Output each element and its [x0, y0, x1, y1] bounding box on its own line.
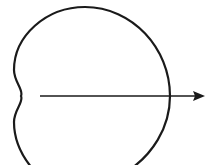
limacon-diagram	[0, 0, 205, 165]
background	[0, 0, 205, 165]
